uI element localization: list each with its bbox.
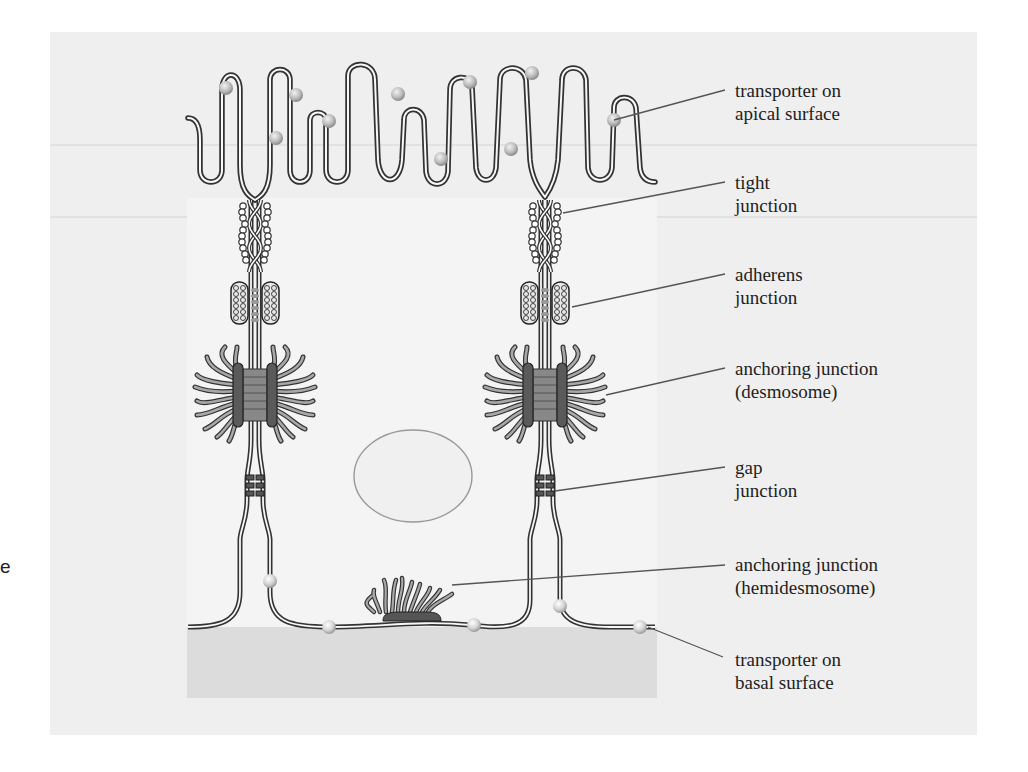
label-transporter-apical: transporter on apical surface — [735, 79, 841, 125]
desmosome-right — [485, 347, 605, 441]
transporter-icon — [463, 75, 477, 89]
transporter-icon — [633, 620, 647, 634]
tight-junction-right — [529, 200, 561, 272]
apical-membrane — [188, 64, 655, 200]
transporter-icon — [434, 152, 448, 166]
gap-junction-right — [536, 475, 554, 496]
transporter-icon — [269, 131, 283, 145]
label-adherens-junction: adherens junction — [735, 263, 803, 309]
label-transporter-basal: transporter on basal surface — [735, 648, 841, 694]
transporter-icon — [322, 114, 336, 128]
transporter-icon — [525, 66, 539, 80]
label-tight-junction: tight junction — [735, 171, 797, 217]
desmosome-left — [195, 347, 315, 441]
label-desmosome: anchoring junction (desmosome) — [735, 357, 878, 403]
transporter-icon — [553, 599, 567, 613]
hemidesmosome — [367, 578, 452, 621]
adherens-junction-left — [231, 282, 279, 324]
label-gap-junction: gap junction — [735, 456, 797, 502]
adherens-junction-right — [521, 282, 569, 324]
gap-junction-left — [246, 475, 264, 496]
transporter-icon — [219, 81, 233, 95]
label-hemidesmosome: anchoring junction (hemidesmosome) — [735, 553, 878, 599]
transporter-icon — [322, 620, 336, 634]
tight-junction-left — [239, 200, 271, 272]
transporter-icon — [263, 574, 277, 588]
transporter-icon — [391, 87, 405, 101]
transporter-icon — [504, 142, 518, 156]
transporter-icon — [467, 618, 481, 632]
transporter-icon — [289, 88, 303, 102]
nucleus — [354, 430, 472, 522]
